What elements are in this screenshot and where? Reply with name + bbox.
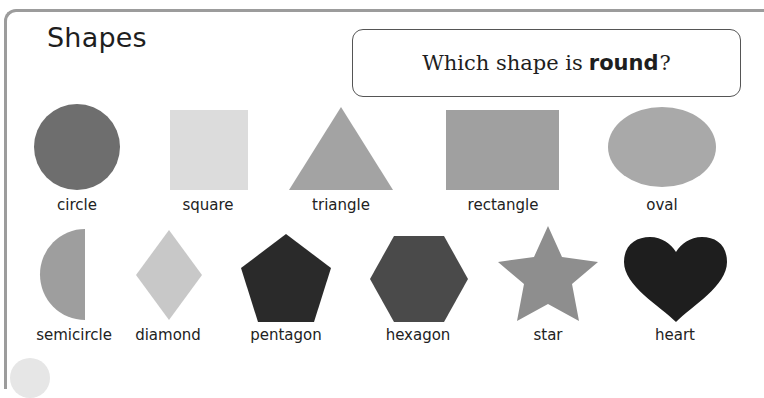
hexagon-shape[interactable] — [370, 236, 468, 322]
circle-shape[interactable] — [34, 104, 120, 190]
circle-label: circle — [57, 196, 97, 214]
pentagon-shape[interactable] — [241, 234, 331, 322]
semicircle-shape[interactable] — [40, 229, 85, 320]
star-shape[interactable] — [498, 226, 598, 321]
heart-label: heart — [655, 326, 695, 344]
pentagon-label: pentagon — [250, 326, 322, 344]
star-label: star — [533, 326, 562, 344]
diamond-shape[interactable] — [136, 230, 202, 320]
square-label: square — [182, 196, 233, 214]
corner-decoration — [10, 358, 50, 398]
diamond-label: diamond — [135, 326, 201, 344]
square-shape[interactable] — [170, 110, 248, 190]
semicircle-label: semicircle — [36, 326, 112, 344]
heart-shape[interactable] — [624, 237, 727, 322]
rectangle-label: rectangle — [468, 196, 539, 214]
hexagon-label: hexagon — [386, 326, 451, 344]
triangle-label: triangle — [312, 196, 370, 214]
oval-shape[interactable] — [608, 107, 716, 187]
rectangle-shape[interactable] — [446, 110, 559, 190]
triangle-shape[interactable] — [289, 107, 393, 190]
oval-label: oval — [646, 196, 677, 214]
